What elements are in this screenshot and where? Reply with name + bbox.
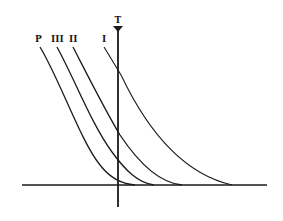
t-axis-label: T xyxy=(115,15,122,25)
curve-label-ii: II xyxy=(69,34,77,44)
curve-i xyxy=(104,47,232,185)
curve-p xyxy=(40,47,135,185)
shift-curves-diagram: T P III II I xyxy=(0,0,283,221)
curve-label-i: I xyxy=(102,34,106,44)
curve-label-p: P xyxy=(35,34,42,44)
curve-iii xyxy=(57,47,154,185)
curve-ii xyxy=(73,47,182,185)
curve-label-iii: III xyxy=(51,34,64,44)
t-marker-triangle-icon xyxy=(113,26,123,32)
